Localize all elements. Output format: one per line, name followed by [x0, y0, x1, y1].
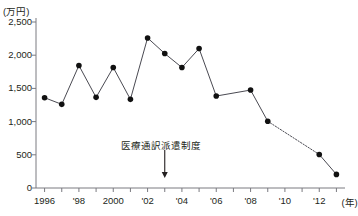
annotation-label: 医療通訳派遣制度 [121, 138, 201, 152]
data-point-marker [59, 102, 65, 108]
y-axis-tick-label: 0 [0, 182, 32, 193]
data-point-marker [110, 65, 116, 71]
data-point-marker [316, 152, 322, 158]
y-axis-tick-label: 2,000 [0, 49, 32, 60]
data-point-marker [162, 51, 168, 57]
series-segment [79, 65, 96, 97]
data-point-marker [248, 87, 254, 93]
series-segment [165, 54, 182, 68]
series-segment [62, 65, 79, 104]
data-point-marker [265, 118, 271, 124]
data-point-marker [128, 97, 134, 103]
series-segment-dotted [268, 121, 320, 154]
data-point-marker [196, 46, 202, 52]
series-segment [216, 90, 250, 96]
data-point-marker [179, 65, 185, 71]
x-axis-tick-label: '12 [299, 195, 339, 206]
series-segment [199, 49, 216, 96]
series-segment [319, 154, 336, 174]
data-point-marker [42, 95, 48, 101]
data-point-marker [334, 172, 340, 178]
y-axis-tick-label: 1,000 [0, 116, 32, 127]
series-segment [130, 38, 147, 99]
data-point-marker [93, 95, 99, 101]
data-point-marker [76, 63, 82, 69]
data-point-marker [145, 35, 151, 41]
annotation-arrow-head [162, 172, 168, 178]
series-segment [148, 38, 165, 54]
y-axis-tick-label: 2,500 [0, 16, 32, 27]
series-segment [182, 49, 199, 68]
data-point-marker [213, 93, 219, 99]
series-segment [96, 67, 113, 97]
y-axis-tick-label: 500 [0, 149, 32, 160]
series-segment [251, 90, 268, 121]
y-axis-tick-label: 1,500 [0, 82, 32, 93]
series-segment [113, 67, 130, 99]
x-axis-unit-label: (年) [341, 195, 357, 209]
